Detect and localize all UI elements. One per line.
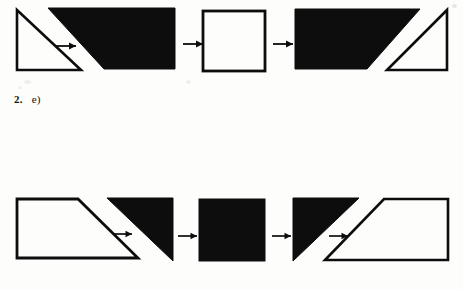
top-step-3-white-square <box>203 11 265 71</box>
question-option: e) <box>32 93 41 105</box>
arrow-6 <box>272 233 291 239</box>
puzzle-page: 2.e) <box>0 0 463 290</box>
square-outline <box>203 11 265 71</box>
black-square <box>199 199 265 261</box>
bottom-step-3-black-square <box>199 199 265 261</box>
arrow-5 <box>178 233 197 239</box>
arrow-2 <box>183 41 203 48</box>
bottom-step-4-composite <box>293 198 448 261</box>
top-step-4-composite <box>295 9 447 70</box>
shape-canvas <box>0 0 463 290</box>
arrow-3 <box>273 41 293 48</box>
question-label: 2.e) <box>14 92 41 106</box>
question-number: 2. <box>14 93 23 105</box>
